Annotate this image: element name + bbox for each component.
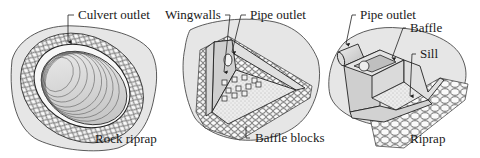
label-wingwalls: Wingwalls xyxy=(165,8,221,22)
label-baffle: Baffle xyxy=(410,21,442,35)
label-pipe-outlet-2: Pipe outlet xyxy=(250,8,306,22)
panel-baffle-outlet xyxy=(329,15,468,148)
label-baffle-blocks: Baffle blocks xyxy=(255,131,324,145)
label-riprap: Riprap xyxy=(410,132,445,146)
label-culvert-outlet: Culvert outlet xyxy=(78,8,150,22)
panel-wingwall-outlet xyxy=(183,15,320,140)
pipe-in-basin xyxy=(359,61,369,71)
label-sill: Sill xyxy=(420,47,438,61)
label-pipe-outlet-3: Pipe outlet xyxy=(360,8,416,22)
label-rock-riprap: Rock riprap xyxy=(95,132,157,146)
outlet-protection-diagram xyxy=(0,0,480,158)
